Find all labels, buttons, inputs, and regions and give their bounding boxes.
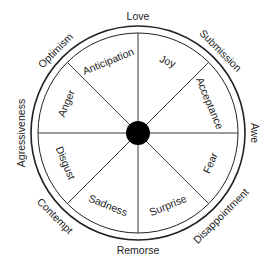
dyad-label-love: Love	[127, 10, 150, 22]
emotion-label-anger: Anger	[55, 87, 77, 118]
emotion-wheel: JoyAcceptanceFearSurpriseSadnessDisgustA…	[0, 0, 275, 266]
spoke-line	[138, 62, 209, 133]
emotion-label-surprise: Surprise	[147, 192, 188, 218]
emotion-label-disgust: Disgust	[54, 144, 79, 181]
emotion-label-anticipation: Anticipation	[81, 45, 136, 77]
dyad-label-awe: Awe	[249, 123, 261, 143]
emotion-label-acceptance: Acceptance	[194, 76, 226, 131]
dyad-label-remorse: Remorse	[117, 244, 160, 256]
emotion-label-sadness: Sadness	[87, 192, 129, 219]
center-hub	[126, 121, 150, 145]
emotion-label-fear: Fear	[200, 150, 220, 175]
emotion-label-joy: Joy	[158, 52, 178, 70]
spoke-line	[67, 62, 138, 133]
spoke-line	[67, 133, 138, 204]
dyad-label-agressiveness: Agressiveness	[15, 99, 27, 167]
spoke-line	[138, 133, 209, 204]
